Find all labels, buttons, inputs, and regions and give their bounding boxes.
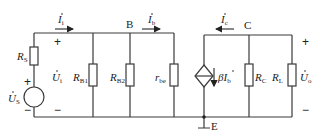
dependent-current-source-icon: [195, 65, 214, 87]
node-c: C: [244, 19, 251, 31]
ui-minus: −: [54, 103, 61, 117]
resistor-rc: [245, 64, 253, 86]
node-b: B: [126, 18, 133, 30]
label-rc: RC: [254, 71, 267, 85]
label-us: US: [8, 92, 20, 106]
label-rs: RS: [16, 50, 28, 64]
node-e: E: [211, 120, 218, 132]
label-ii: Ii: [57, 13, 64, 27]
circuit-diagram: Ii Ib Ic B C E RS RB1 RB2 rbe RC RL βIb …: [0, 0, 324, 137]
resistor-rbe: [170, 64, 178, 86]
ui-plus: +: [54, 35, 61, 49]
resistor-rb2: [126, 64, 134, 86]
resistor-rl: [288, 64, 296, 86]
us-plus: +: [24, 75, 31, 89]
label-ui: Ui: [52, 71, 62, 85]
label-ic: Ic: [220, 13, 228, 27]
resistor-rs: [30, 47, 38, 65]
label-rb1: RB1: [72, 71, 88, 85]
uo-plus: +: [302, 35, 309, 49]
label-rbe: rbe: [155, 71, 166, 85]
uo-minus: −: [302, 103, 309, 117]
label-uo: Uo: [300, 71, 312, 85]
label-rb2: RB2: [109, 71, 125, 85]
resistor-rb1: [89, 64, 97, 86]
label-rl: RL: [271, 71, 283, 85]
us-minus: −: [24, 103, 31, 117]
label-ib: Ib: [147, 13, 156, 27]
label-dep-source: βIb: [217, 71, 231, 85]
